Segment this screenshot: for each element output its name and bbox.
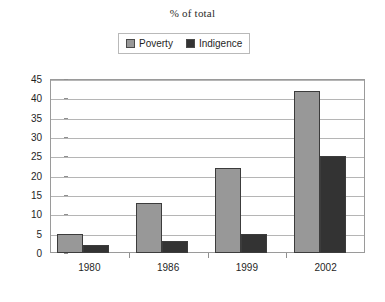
- y-tick-label: 45: [31, 74, 42, 85]
- x-tick-label: 1980: [78, 262, 100, 273]
- bar-group: [129, 79, 208, 253]
- x-axis: 1980198619992002: [50, 262, 365, 278]
- bar-poverty-2002[interactable]: [294, 91, 320, 253]
- y-tick-label: 5: [36, 229, 42, 240]
- y-tick-label: 10: [31, 209, 42, 220]
- bar-poverty-1999[interactable]: [215, 168, 241, 253]
- bar-indigence-1980[interactable]: [83, 245, 109, 253]
- bar-poverty-1986[interactable]: [136, 203, 162, 253]
- y-tick-label: 25: [31, 151, 42, 162]
- bar-group: [50, 79, 129, 253]
- bar-indigence-2002[interactable]: [320, 156, 346, 253]
- bar-group: [208, 79, 287, 253]
- bar-group: [286, 79, 365, 253]
- chart-title: % of total: [0, 7, 385, 19]
- y-axis: 051015202530354045: [18, 79, 46, 253]
- x-tick-mark: [286, 253, 287, 258]
- legend-label-poverty: Poverty: [139, 39, 173, 49]
- y-tick-label: 35: [31, 113, 42, 124]
- chart-page: { "chart_data": { "type": "bar", "title"…: [0, 0, 385, 302]
- bar-indigence-1986[interactable]: [162, 241, 188, 253]
- legend-entry-poverty[interactable]: Poverty: [126, 39, 173, 49]
- y-tick-label: 0: [36, 248, 42, 259]
- x-tick-label: 1986: [157, 262, 179, 273]
- y-tick-label: 20: [31, 171, 42, 182]
- y-tick-label: 40: [31, 93, 42, 104]
- bars-layer: [50, 79, 365, 253]
- legend-swatch-poverty-icon: [126, 39, 135, 48]
- x-tick-mark: [208, 253, 209, 258]
- bar-indigence-1999[interactable]: [241, 234, 267, 253]
- x-axis-ticks: [50, 253, 365, 259]
- chart-legend: Poverty Indigence: [118, 33, 250, 54]
- legend-label-indigence: Indigence: [199, 39, 242, 49]
- legend-swatch-indigence-icon: [186, 39, 195, 48]
- x-tick-label: 2002: [315, 262, 337, 273]
- bar-poverty-1980[interactable]: [57, 234, 83, 253]
- x-tick-label: 1999: [236, 262, 258, 273]
- x-tick-mark: [129, 253, 130, 258]
- legend-entry-indigence[interactable]: Indigence: [186, 39, 242, 49]
- y-tick-label: 15: [31, 190, 42, 201]
- y-tick-label: 30: [31, 132, 42, 143]
